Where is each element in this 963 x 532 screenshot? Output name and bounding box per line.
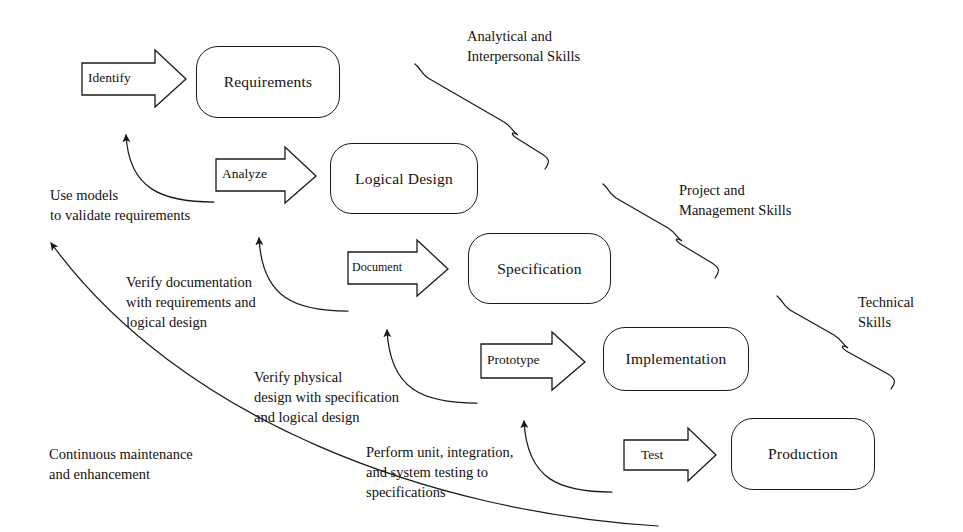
feedback-arrow-perform-testing	[524, 421, 612, 492]
stage-box-logical-design[interactable]: Logical Design	[330, 143, 478, 214]
stage-box-specification[interactable]: Specification	[468, 233, 611, 304]
block-arrow-identify[interactable]	[82, 50, 186, 107]
stage-box-requirements[interactable]: Requirements	[196, 46, 340, 118]
stage-label-specification: Specification	[497, 260, 581, 278]
stage-box-production[interactable]: Production	[731, 418, 875, 490]
note-verify-physical: Verify physical design with specificatio…	[254, 367, 399, 427]
stage-label-implementation: Implementation	[626, 350, 727, 368]
diagram-canvas: Requirements Logical Design Specificatio…	[0, 0, 963, 532]
block-arrow-document[interactable]	[348, 240, 448, 296]
stage-label-logical-design: Logical Design	[355, 170, 453, 188]
stage-box-implementation[interactable]: Implementation	[603, 327, 749, 391]
skill-label-analytical: Analytical and Interpersonal Skills	[467, 26, 580, 66]
feedback-arrow-verify-physical	[387, 330, 477, 403]
stage-label-production: Production	[768, 445, 838, 463]
note-use-models: Use models to validate requirements	[50, 185, 190, 225]
note-verify-documentation: Verify documentation with requirements a…	[126, 272, 256, 332]
block-arrow-prototype[interactable]	[481, 332, 585, 390]
stage-label-requirements: Requirements	[224, 73, 313, 91]
skill-label-technical: Technical Skills	[858, 292, 914, 332]
note-continuous-maintenance: Continuous maintenance and enhancement	[49, 444, 193, 484]
feedback-arrow-verify-documentation	[259, 238, 348, 311]
skill-label-project: Project and Management Skills	[679, 180, 791, 220]
block-arrow-analyze[interactable]	[216, 147, 316, 203]
note-perform-testing: Perform unit, integration, and system te…	[366, 442, 513, 502]
block-arrow-test[interactable]	[624, 428, 716, 481]
